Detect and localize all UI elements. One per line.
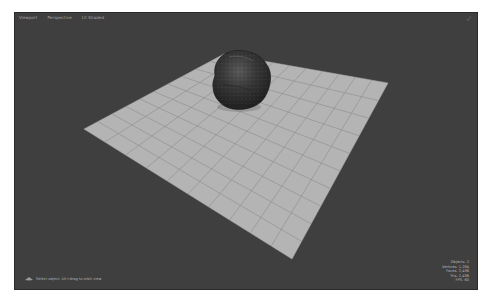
3d-viewport[interactable]: Viewport Perspective Lit Shaded ⤢ <box>14 12 478 290</box>
status-text: Select object. Alt+drag to orbit view <box>36 277 101 281</box>
status-line: Select object. Alt+drag to orbit view <box>25 276 101 281</box>
scene-stats: Objects: 2 Vertices: 1,284 Faces: 2,436 … <box>442 260 469 283</box>
stat-fps: FPS: 60 <box>442 278 469 283</box>
scene-canvas[interactable] <box>15 13 477 289</box>
axis-gizmo-icon <box>25 276 33 281</box>
